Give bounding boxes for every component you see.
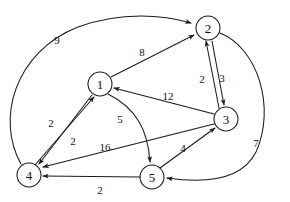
edge-weight-5-to-4: 2 [97,184,103,196]
node-label-1: 1 [97,77,104,92]
edge-weight-3-to-1: 12 [163,90,174,102]
graph-node-2[interactable]: 2 [196,16,220,40]
edge-weight-2-to-3: 3 [219,72,225,84]
node-label-2: 2 [205,21,212,36]
node-label-5: 5 [149,170,156,185]
graph-node-5[interactable]: 5 [140,165,164,189]
graph-edge-1-to-5 [108,94,150,162]
graph-edge-3-to-2 [206,41,219,108]
graph-node-4[interactable]: 4 [17,163,41,187]
edge-weight-2-to-5: 7 [253,137,259,149]
edge-weight-1-to-5: 5 [117,113,123,125]
edge-weight-1-to-4: 2 [48,117,54,129]
edges-layer [10,16,264,180]
edge-weight-4-to-1: 2 [70,135,76,147]
graph-diagram: 98231222516427 12345 [0,0,290,202]
edge-weight-3-to-2: 2 [199,73,205,85]
graph-edge-4-to-1 [35,97,94,165]
graph-edge-5-to-4 [43,176,140,177]
graph-edge-1-to-2 [111,35,194,77]
graph-node-1[interactable]: 1 [88,72,112,96]
graph-canvas-svg: 98231222516427 12345 [0,0,290,202]
edge-weight-4-to-2: 9 [54,34,60,46]
edge-weight-1-to-2: 8 [139,46,145,58]
edge-weight-5-to-3: 4 [180,142,186,154]
node-label-4: 4 [26,168,33,183]
edge-weight-3-to-4: 16 [100,141,112,153]
graph-edge-3-to-4 [43,124,214,167]
graph-edge-5-to-3 [160,128,215,168]
node-label-3: 3 [223,112,230,127]
graph-node-3[interactable]: 3 [214,107,238,131]
graph-edge-2-to-5 [167,33,264,180]
